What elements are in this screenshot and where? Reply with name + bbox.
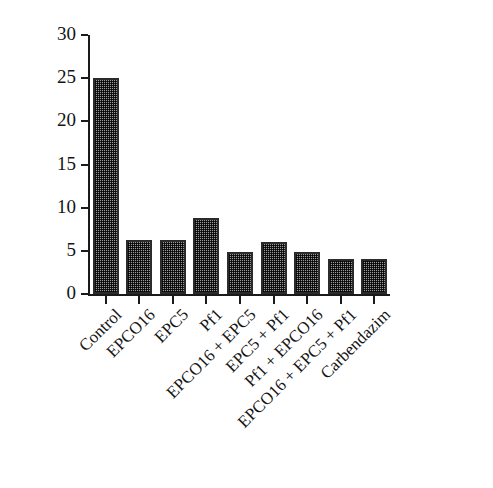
y-axis-tick: 0 [81,293,88,295]
bar [227,252,253,294]
bar [126,240,152,294]
bar [160,240,186,294]
bar [261,242,287,294]
x-axis-tick [105,296,107,304]
x-axis-tick [172,296,174,304]
x-axis-tick [306,296,308,304]
y-axis-tick-label: 10 [57,196,76,218]
y-axis-tick-label: 0 [67,282,77,304]
bar [193,218,219,294]
x-axis-tick [138,296,140,304]
x-axis-tick [205,296,207,304]
y-axis-tick-label: 25 [57,66,76,88]
y-axis-tick-label: 20 [57,109,76,131]
bar [361,259,387,294]
y-axis-line [88,35,90,296]
x-axis-tick-label-text: EPC5 [151,305,193,347]
bar [93,78,119,294]
y-axis-tick-label: 15 [57,153,76,175]
bar-chart-figure: Disease index (%) 051015202530 ControlEP… [0,0,493,488]
bar [294,252,320,294]
y-axis-tick: 10 [81,207,88,209]
x-axis-tick [340,296,342,304]
y-axis-tick: 30 [81,34,88,36]
plot-area: 051015202530 [88,35,390,296]
x-axis-tick [273,296,275,304]
x-axis-tick [373,296,375,304]
bar [328,259,354,294]
y-axis-tick: 25 [81,77,88,79]
y-axis-tick-label: 5 [67,239,77,261]
y-axis-tick: 5 [81,250,88,252]
y-axis-tick: 20 [81,120,88,122]
x-axis-tick [239,296,241,304]
y-axis-tick-label: 30 [57,23,76,45]
y-axis-tick: 15 [81,164,88,166]
